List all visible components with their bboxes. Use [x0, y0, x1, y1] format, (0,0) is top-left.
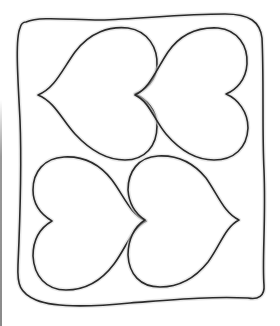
heart-bottom-right	[128, 156, 239, 287]
quilt-drawing	[0, 0, 280, 326]
